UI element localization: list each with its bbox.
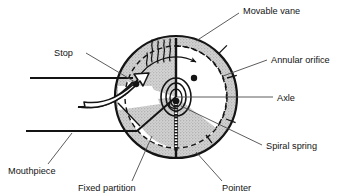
label-fixed-partition: Fixed partition: [78, 183, 136, 193]
label-spiral-spring: Spiral spring: [266, 141, 317, 151]
leader-movable-vane: [196, 13, 239, 41]
label-pointer: Pointer: [222, 183, 251, 193]
diagram-page: Movable vane Annular orifice Axle Spiral…: [0, 0, 358, 196]
label-stop: Stop: [54, 48, 73, 58]
leader-mouthpiece: [48, 133, 72, 164]
vane-reference-dot: [191, 75, 197, 81]
label-movable-vane: Movable vane: [243, 6, 300, 16]
axle-hub: [173, 98, 180, 105]
label-annular-orifice: Annular orifice: [271, 55, 330, 65]
leader-pointer: [196, 152, 222, 181]
label-mouthpiece: Mouthpiece: [8, 166, 56, 176]
peak-flow-meter-diagram: Movable vane Annular orifice Axle Spiral…: [0, 0, 358, 196]
label-axle: Axle: [277, 93, 295, 103]
